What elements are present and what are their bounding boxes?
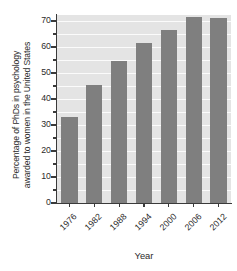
x-tick <box>94 203 95 207</box>
y-tick-label: 10 <box>31 172 51 181</box>
x-tick <box>143 203 144 207</box>
y-tick-minor <box>53 111 57 112</box>
x-tick <box>119 203 120 207</box>
y-tick-major <box>51 202 57 203</box>
bar-1982 <box>86 85 102 203</box>
y-tick-minor <box>53 189 57 190</box>
y-tick-label: 60 <box>31 42 51 51</box>
x-tick <box>168 203 169 207</box>
bar-1988 <box>111 61 127 203</box>
y-axis-tick-labels: 010203040506070 <box>29 0 51 271</box>
y-tick-minor <box>53 33 57 34</box>
bar-1976 <box>61 117 77 203</box>
y-tick-major <box>51 124 57 125</box>
bar-series <box>57 15 231 203</box>
bar-2006 <box>186 17 202 203</box>
y-tick-major <box>51 98 57 99</box>
x-axis-title: Year <box>57 250 231 261</box>
bar-chart-figure: Percentage of PhDs in psychology awarded… <box>0 0 237 271</box>
y-tick-major <box>51 46 57 47</box>
y-tick-label: 50 <box>31 68 51 77</box>
bar-2000 <box>161 30 177 203</box>
y-tick-major <box>51 176 57 177</box>
y-tick-label: 20 <box>31 146 51 155</box>
bar-2012 <box>210 18 226 203</box>
x-tick <box>218 203 219 207</box>
y-tick-minor <box>53 59 57 60</box>
x-tick <box>193 203 194 207</box>
y-tick-label: 70 <box>31 16 51 25</box>
y-tick-major <box>51 150 57 151</box>
plot-area <box>57 15 231 203</box>
y-tick-label: 30 <box>31 120 51 129</box>
y-tick-minor <box>53 85 57 86</box>
y-tick-label: 40 <box>31 94 51 103</box>
y-tick-major <box>51 72 57 73</box>
bar-1994 <box>136 43 152 203</box>
x-tick <box>69 203 70 207</box>
y-tick-major <box>51 20 57 21</box>
y-axis-title-line-1: Percentage of PhDs in psychology <box>11 15 22 215</box>
y-tick-label: 0 <box>31 198 51 207</box>
y-tick-minor <box>53 163 57 164</box>
y-tick-minor <box>53 137 57 138</box>
